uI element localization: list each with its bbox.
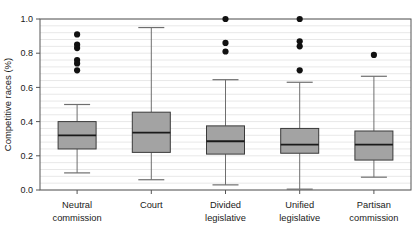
box-iqr <box>207 126 245 154</box>
outlier-point <box>297 43 303 49</box>
x-category-label: legislative <box>205 213 246 223</box>
outlier-point <box>297 67 303 73</box>
x-category-label: Divided <box>210 200 241 210</box>
boxplot-figure: 0.00.20.40.60.81.0Competitive races (%)N… <box>0 0 415 243</box>
x-category-label: Court <box>140 200 163 210</box>
y-axis-title: Competitive races (%) <box>2 58 13 151</box>
boxplot-group <box>58 31 96 173</box>
x-category-label: commission <box>349 213 398 223</box>
x-category-label: Unified <box>285 200 314 210</box>
outlier-point <box>74 60 80 66</box>
boxplot-group <box>132 28 170 180</box>
y-tick-label: 0.0 <box>20 185 33 195</box>
outlier-point <box>74 45 80 51</box>
outlier-point <box>222 40 228 46</box>
y-tick-label: 0.4 <box>20 117 33 127</box>
box-iqr <box>281 128 319 153</box>
outlier-point <box>222 48 228 54</box>
outlier-point <box>222 16 228 22</box>
y-tick-label: 0.2 <box>20 151 33 161</box>
y-tick-label: 0.8 <box>20 48 33 58</box>
x-category-label: legislative <box>279 213 320 223</box>
outlier-point <box>297 16 303 22</box>
y-tick-label: 1.0 <box>20 14 33 24</box>
x-category-label: Neutral <box>62 200 92 210</box>
chart-canvas: 0.00.20.40.60.81.0Competitive races (%)N… <box>0 0 415 243</box>
outlier-point <box>371 52 377 58</box>
outlier-point <box>74 67 80 73</box>
y-tick-label: 0.6 <box>20 83 33 93</box>
boxplot-group <box>281 16 319 189</box>
boxplot-group <box>207 16 245 185</box>
x-category-label: Partisan <box>357 200 391 210</box>
outlier-point <box>74 31 80 37</box>
x-category-label: commission <box>53 213 102 223</box>
